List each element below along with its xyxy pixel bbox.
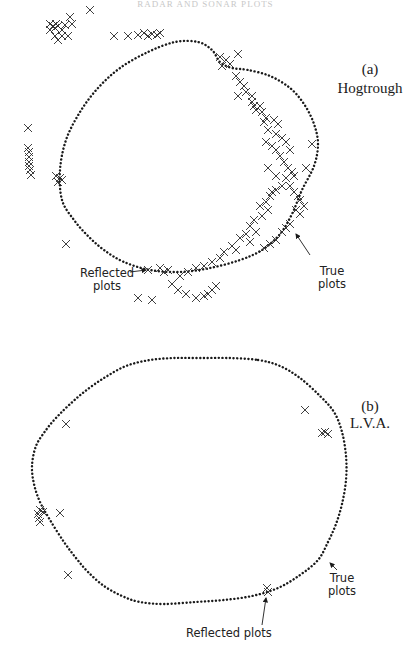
reflected-plot-cross <box>25 158 33 166</box>
reflected-plot-cross <box>296 210 304 218</box>
reflected-plot-cross <box>301 406 309 414</box>
reflected-plot-cross <box>192 294 200 302</box>
reflected-plot-cross <box>252 228 260 236</box>
reflected-plot-cross <box>54 36 62 44</box>
reflected-plot-cross <box>148 296 156 304</box>
reflected-plot-cross <box>262 138 270 146</box>
reflected-plot-cross <box>164 266 172 274</box>
reflected-plot-cross <box>272 172 280 180</box>
reflected-plot-cross <box>272 146 280 154</box>
reflected-plot-cross <box>272 130 280 138</box>
reflected-label-line2: plots <box>80 280 134 293</box>
reflected-plot-cross <box>250 216 258 224</box>
reflected-plot-cross <box>266 240 274 248</box>
reflected-plot-cross <box>262 198 270 206</box>
true-label-line2: plots <box>318 278 346 291</box>
reflected-plot-cross <box>308 140 316 148</box>
panel-a-hogtrough <box>24 6 318 304</box>
reflected-plot-cross <box>264 164 272 172</box>
reflected-plot-cross <box>124 32 132 40</box>
pointer-arrow <box>262 598 266 625</box>
reflected-plot-cross <box>278 182 286 190</box>
reflected-plot-cross <box>290 172 298 180</box>
true-plots-label-a: True plots <box>318 265 346 291</box>
reflected-plot-cross <box>300 202 308 210</box>
reflected-plot-cross <box>274 120 282 128</box>
reflected-plot-cross <box>252 106 260 114</box>
reflected-plot-cross <box>302 164 310 172</box>
reflected-plot-cross <box>276 152 284 160</box>
reflected-plot-cross <box>86 6 94 14</box>
reflected-plot-cross <box>242 230 250 238</box>
reflected-plot-cross <box>286 146 294 154</box>
reflected-plots-crosses-a <box>24 6 316 304</box>
reflected-plot-cross <box>64 571 72 579</box>
reflected-plot-cross <box>240 82 248 90</box>
radar-plot-figure <box>0 0 411 654</box>
reflected-plots-label-b: Reflected plots <box>186 627 272 640</box>
true-label-line2: plots <box>328 585 356 598</box>
reflected-plot-cross <box>236 234 244 242</box>
reflected-plot-cross <box>264 126 272 134</box>
panel-title-lva: L.V.A. <box>320 415 411 432</box>
reflected-label-word2: plots <box>244 626 272 640</box>
panel-b-lva <box>32 358 347 625</box>
true-plots-outline-b <box>32 358 347 604</box>
label-arrows-b <box>262 563 337 625</box>
reflected-plot-cross <box>24 124 32 132</box>
reflected-plot-cross <box>110 32 118 40</box>
panel-tag-a: (a) <box>330 61 410 78</box>
reflected-plot-cross <box>232 246 240 254</box>
label-arrows-a <box>130 234 310 272</box>
reflected-plot-cross <box>280 158 288 166</box>
reflected-plot-cross <box>258 108 266 116</box>
panel-title-hogtrough: Hogtrough <box>320 80 411 97</box>
reflected-plot-cross <box>208 258 216 266</box>
reflected-plot-cross <box>212 282 220 290</box>
reflected-plot-cross <box>174 286 182 294</box>
pointer-arrow <box>330 563 337 570</box>
reflected-plot-cross <box>256 202 264 210</box>
reflected-plots-label-a: Reflected plots <box>80 267 134 293</box>
reflected-plot-cross <box>140 29 148 37</box>
reflected-plot-cross <box>234 92 242 100</box>
reflected-plot-cross <box>62 420 70 428</box>
reflected-plot-cross <box>260 244 268 252</box>
pointer-arrow <box>296 234 310 255</box>
true-plots-label-b: True plots <box>328 572 356 598</box>
panel-tag-b: (b) <box>330 398 410 415</box>
reflected-plot-cross <box>27 171 35 179</box>
reflected-plot-cross <box>272 186 280 194</box>
reflected-plot-cross <box>232 72 240 80</box>
reflected-plot-cross <box>234 50 242 58</box>
reflected-plot-cross <box>176 272 184 280</box>
reflected-plot-cross <box>242 88 250 96</box>
reflected-plot-cross <box>66 13 74 21</box>
reflected-plot-cross <box>182 290 190 298</box>
reflected-plot-cross <box>216 254 224 262</box>
reflected-plot-cross <box>246 238 254 246</box>
reflected-label-word1: Reflected <box>186 626 240 640</box>
reflected-plots-crosses-b <box>34 406 332 596</box>
reflected-plot-cross <box>282 174 290 182</box>
reflected-plot-cross <box>68 20 76 28</box>
reflected-plot-cross <box>156 29 164 37</box>
reflected-plot-cross <box>264 206 272 214</box>
reflected-plot-cross <box>282 138 290 146</box>
reflected-plot-cross <box>56 509 64 517</box>
reflected-plot-cross <box>286 182 294 190</box>
reflected-plot-cross <box>220 248 228 256</box>
reflected-plot-cross <box>248 98 256 106</box>
reflected-plot-cross <box>51 32 59 40</box>
reflected-plot-cross <box>260 118 268 126</box>
reflected-plot-cross <box>134 31 142 39</box>
reflected-plot-cross <box>64 32 72 40</box>
reflected-plot-cross <box>62 240 70 248</box>
reflected-plot-cross <box>134 294 142 302</box>
